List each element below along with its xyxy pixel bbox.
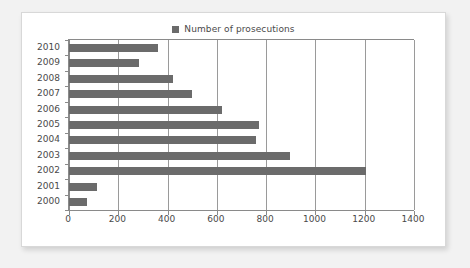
- bar[interactable]: [69, 198, 87, 206]
- x-axis-label: 400: [158, 214, 175, 225]
- screenshot-root: Number of prosecutions 20102009200820072…: [0, 0, 470, 268]
- bar-row: [69, 102, 414, 117]
- y-axis-label: 2001: [22, 178, 64, 193]
- chart-card: Number of prosecutions 20102009200820072…: [21, 12, 446, 247]
- bar[interactable]: [69, 167, 366, 175]
- bar[interactable]: [69, 59, 139, 67]
- bar[interactable]: [69, 106, 222, 114]
- y-axis-label: 2008: [22, 70, 64, 85]
- bar[interactable]: [69, 121, 259, 129]
- bar-row: [69, 179, 414, 194]
- bar-series: [69, 40, 414, 210]
- x-axis-label: 200: [109, 214, 126, 225]
- x-axis-label: 1400: [402, 214, 425, 225]
- bar[interactable]: [69, 44, 158, 52]
- plot-wrapper: 2010200920082007200620052004200320022001…: [22, 13, 445, 246]
- x-axis-label: 800: [257, 214, 274, 225]
- y-axis-label: 2003: [22, 147, 64, 162]
- bar-row: [69, 117, 414, 132]
- y-axis-label: 2010: [22, 39, 64, 54]
- x-axis-label: 1000: [303, 214, 326, 225]
- bar-row: [69, 71, 414, 86]
- y-axis-labels: 2010200920082007200620052004200320022001…: [22, 39, 64, 209]
- bar-row: [69, 148, 414, 163]
- bar[interactable]: [69, 75, 173, 83]
- y-axis-label: 2004: [22, 132, 64, 147]
- plot-area: [68, 39, 414, 210]
- y-axis-label: 2000: [22, 194, 64, 209]
- bar[interactable]: [69, 90, 192, 98]
- bar[interactable]: [69, 152, 290, 160]
- x-axis-label: 600: [207, 214, 224, 225]
- bar-row: [69, 133, 414, 148]
- x-axis-label: 1200: [352, 214, 375, 225]
- bar-row: [69, 195, 414, 210]
- gridline: [414, 40, 415, 210]
- bar[interactable]: [69, 183, 97, 191]
- bar-row: [69, 164, 414, 179]
- y-axis-label: 2005: [22, 116, 64, 131]
- x-axis-labels: 0200400600800100012001400: [68, 214, 413, 226]
- x-axis-label: 0: [65, 214, 71, 225]
- y-axis-label: 2006: [22, 101, 64, 116]
- y-axis-label: 2007: [22, 85, 64, 100]
- bar-row: [69, 55, 414, 70]
- y-axis-label: 2002: [22, 163, 64, 178]
- bar-row: [69, 40, 414, 55]
- bar[interactable]: [69, 136, 256, 144]
- y-axis-label: 2009: [22, 54, 64, 69]
- bar-row: [69, 86, 414, 101]
